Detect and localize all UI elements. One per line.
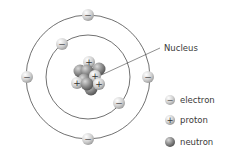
svg-text:−: − (144, 72, 152, 82)
neutron (81, 78, 94, 91)
svg-text:−: − (115, 98, 123, 108)
neutron-legend-icon (165, 137, 175, 147)
legend-label-proton: proton (180, 115, 208, 125)
atom-diagram: + + + + − − − − − − Nucleus − electron +… (0, 0, 229, 168)
svg-text:−: − (84, 10, 92, 20)
electron: − (142, 71, 154, 83)
svg-text:+: + (167, 116, 174, 125)
svg-text:−: − (84, 134, 92, 144)
svg-text:−: − (167, 96, 174, 105)
nucleus-label: Nucleus (164, 43, 198, 53)
electron: − (21, 71, 33, 83)
legend-label-neutron: neutron (180, 137, 213, 147)
electron: − (82, 133, 94, 145)
svg-text:−: − (58, 39, 66, 49)
electron: − (113, 97, 125, 109)
legend: − electron + proton neutron (165, 95, 215, 147)
svg-text:−: − (23, 72, 31, 82)
electron: − (56, 38, 68, 50)
nucleus: + + + + (71, 56, 106, 96)
svg-text:+: + (95, 79, 103, 89)
svg-text:+: + (73, 78, 81, 88)
electron: − (82, 9, 94, 21)
legend-label-electron: electron (180, 95, 215, 105)
